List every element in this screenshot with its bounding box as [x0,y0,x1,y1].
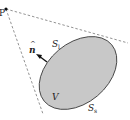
lit-surface-subscript: l [58,43,60,50]
point-p-label: P [0,8,5,18]
tangent-line-upper [6,9,128,43]
shadow-surface-subscript: s [94,107,97,114]
body-ellipse [25,22,130,120]
tangent-line-lower [6,9,43,114]
normal-hat: ^ [30,40,36,48]
diagram-canvas: P n ^ S l V S s [0,0,130,120]
